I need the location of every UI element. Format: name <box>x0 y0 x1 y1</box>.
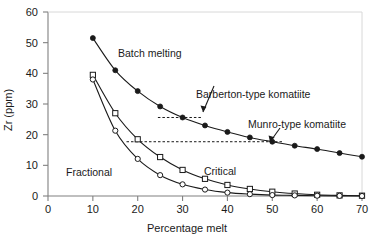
data-point <box>202 187 207 192</box>
data-point <box>180 167 185 172</box>
annotation-fractional: Fractional <box>66 166 112 178</box>
data-point <box>337 151 342 156</box>
data-point <box>180 115 185 120</box>
data-point <box>292 143 297 148</box>
data-point <box>360 154 365 159</box>
annotation-barberton-type-komatiite: Barberton-type komatiite <box>196 88 310 100</box>
y-tick-label-60: 60 <box>0 6 38 18</box>
zr-percentage-melt-chart: 0102030405060 010203040506070 Zr (ppm) P… <box>0 0 374 244</box>
x-axis-title: Percentage melt <box>147 222 227 234</box>
x-tick-label-10: 10 <box>87 203 99 215</box>
y-axis-title: Zr (ppm) <box>2 80 14 140</box>
data-point <box>113 111 118 116</box>
data-point <box>270 192 275 197</box>
data-point <box>180 182 185 187</box>
x-tick-label-0: 0 <box>45 203 51 215</box>
y-axis-ticks <box>43 12 48 196</box>
data-point <box>113 128 118 133</box>
y-tick-label-50: 50 <box>0 37 38 49</box>
x-tick-label-20: 20 <box>132 203 144 215</box>
annotation-critical: Critical <box>204 165 236 177</box>
y-tick-label-10: 10 <box>0 159 38 171</box>
data-point <box>225 190 230 195</box>
annotation-munro-type-komatiite: Munro-type komatiite <box>248 118 346 130</box>
data-point <box>158 104 163 109</box>
data-point <box>247 186 252 191</box>
data-point <box>337 193 342 198</box>
data-point <box>135 156 140 161</box>
data-point <box>315 193 320 198</box>
data-point <box>135 137 140 142</box>
x-tick-label-70: 70 <box>356 203 368 215</box>
data-point <box>203 123 208 128</box>
data-point <box>113 68 118 73</box>
data-point <box>315 147 320 152</box>
data-point <box>158 154 163 159</box>
data-point <box>247 192 252 197</box>
data-point <box>225 182 230 187</box>
y-tick-label-0: 0 <box>0 190 38 202</box>
data-point <box>292 193 297 198</box>
x-tick-label-40: 40 <box>221 203 233 215</box>
x-tick-label-50: 50 <box>266 203 278 215</box>
data-point <box>247 135 252 140</box>
annotation-batch-melting: Batch melting <box>118 47 182 59</box>
data-point <box>135 89 140 94</box>
data-point <box>158 173 163 178</box>
x-tick-label-30: 30 <box>176 203 188 215</box>
data-point <box>225 129 230 134</box>
data-point <box>90 77 95 82</box>
data-point <box>359 193 364 198</box>
y-tick-label-40: 40 <box>0 67 38 79</box>
data-point <box>202 176 207 181</box>
data-point <box>90 36 95 41</box>
x-tick-label-60: 60 <box>311 203 323 215</box>
